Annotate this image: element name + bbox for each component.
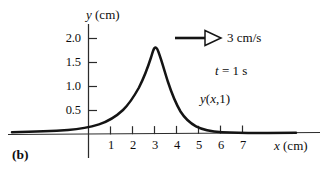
x-tick-label-4: 4 bbox=[170, 139, 184, 152]
y-axis-title: y (cm) bbox=[86, 8, 120, 21]
time-label-symbol: t bbox=[215, 63, 219, 78]
y-axis-title-symbol: y bbox=[86, 7, 92, 22]
velocity-arrow bbox=[175, 31, 221, 46]
x-tick-label-7: 7 bbox=[236, 139, 250, 152]
panel-label: (b) bbox=[12, 148, 29, 162]
x-tick-label-2: 2 bbox=[126, 139, 140, 152]
curve-label: y(x,1) bbox=[200, 92, 230, 105]
velocity-label: 3 cm/s bbox=[227, 31, 261, 44]
x-tick-label-6: 6 bbox=[214, 139, 228, 152]
wave-pulse-figure: y (cm) x (cm) 2.0 1.5 1.0 0.5 1 2 3 4 5 … bbox=[0, 0, 332, 170]
y-tick-label-1-5: 1.5 bbox=[55, 56, 81, 69]
y-axis-ticks bbox=[89, 39, 98, 111]
y-axis-title-unit: (cm) bbox=[95, 7, 120, 22]
curve-label-rest: ,1) bbox=[216, 91, 230, 106]
x-axis-title-unit: (cm) bbox=[283, 138, 308, 153]
time-label: t = 1 s bbox=[215, 64, 247, 77]
y-tick-label-0-5: 0.5 bbox=[55, 104, 81, 117]
y-tick-label-2-0: 2.0 bbox=[55, 32, 81, 45]
x-tick-label-3: 3 bbox=[148, 139, 162, 152]
y-tick-label-1-0: 1.0 bbox=[55, 80, 81, 93]
x-tick-label-1: 1 bbox=[104, 139, 118, 152]
time-label-value: = 1 s bbox=[222, 63, 247, 78]
x-axis-title-symbol: x bbox=[274, 138, 280, 153]
x-tick-label-5: 5 bbox=[192, 139, 206, 152]
velocity-arrow-head-icon bbox=[205, 31, 221, 46]
x-axis-title: x (cm) bbox=[274, 139, 308, 152]
